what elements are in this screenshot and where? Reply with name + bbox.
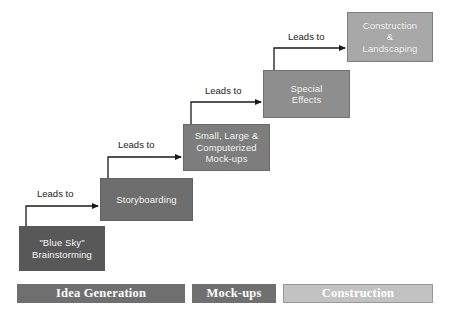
node-construction-label-line1: Construction	[360, 20, 421, 32]
node-mockups-label-line2: Computerized	[192, 142, 262, 154]
node-construction-label-line3: Landscaping	[360, 43, 421, 55]
node-blue-sky-label-line2: Brainstorming	[29, 249, 95, 261]
connector-label-3: Leads to	[205, 85, 241, 96]
node-mockups[interactable]: Small, Large & Computerized Mock-ups	[183, 124, 270, 171]
connector-label-1: Leads to	[37, 188, 73, 199]
connector-arrow-2	[108, 157, 181, 178]
node-storyboarding[interactable]: Storyboarding	[100, 178, 193, 221]
phase-bar-mock-ups[interactable]: Mock-ups	[192, 284, 276, 303]
node-special-effects[interactable]: Special Effects	[263, 70, 350, 118]
node-blue-sky[interactable]: "Blue Sky" Brainstorming	[19, 226, 105, 271]
connector-label-4: Leads to	[288, 31, 324, 42]
node-mockups-label-line1: Small, Large &	[192, 130, 262, 142]
node-blue-sky-label-line1: "Blue Sky"	[29, 237, 95, 249]
connector-arrow-1	[26, 206, 98, 226]
connector-label-2: Leads to	[118, 139, 154, 150]
node-storyboarding-label: Storyboarding	[113, 194, 179, 206]
node-construction-landscaping[interactable]: Construction & Landscaping	[347, 12, 433, 62]
connector-arrow-4	[274, 48, 345, 70]
node-special-effects-label-line1: Special	[288, 83, 326, 95]
node-construction-label-line2: &	[360, 31, 421, 43]
node-special-effects-label-line2: Effects	[288, 94, 326, 106]
connector-arrow-3	[191, 102, 261, 124]
phase-bar-construction[interactable]: Construction	[283, 284, 433, 303]
node-mockups-label-line3: Mock-ups	[192, 153, 262, 165]
flowchart-diagram: "Blue Sky" Brainstorming Storyboarding S…	[0, 0, 450, 317]
phase-bar-idea-generation[interactable]: Idea Generation	[17, 284, 185, 303]
